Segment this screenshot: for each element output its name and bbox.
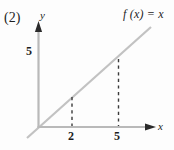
- y-axis-label: y: [40, 10, 45, 21]
- y-axis-arrowhead-icon: [35, 21, 42, 32]
- function-equation-label: f (x) = x: [123, 8, 164, 20]
- x-axis-tick-label-2: 2: [68, 130, 74, 142]
- x-axis-arrowhead-icon: [145, 123, 156, 130]
- x-axis-tick-label-5: 5: [114, 130, 120, 142]
- x-axis-label: x: [158, 121, 163, 132]
- y-axis-tick-label-5: 5: [26, 45, 32, 57]
- function-line-fx-equals-x: [27, 27, 151, 138]
- item-number-label: (2): [4, 11, 20, 25]
- figure-container: (2) y x f (x) = x 5 2 5: [0, 0, 174, 150]
- graph-canvas: [0, 0, 174, 150]
